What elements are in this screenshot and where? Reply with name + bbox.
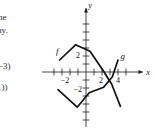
y-axis-label: y <box>87 1 92 10</box>
x-axis-arrow <box>139 70 144 74</box>
curve-label-g: g <box>121 51 126 61</box>
curve-label-f: f <box>56 46 60 56</box>
coordinate-plane: −2 2 4 2 −2 x y f g <box>0 0 155 133</box>
x-axis-label: x <box>145 68 150 77</box>
figure-container: he hy. ) (−3) 1)) <box>0 0 155 133</box>
y-tick-label-2: 2 <box>76 51 80 60</box>
gutter-line-4: (−3) <box>0 62 11 71</box>
gutter-line-1: he <box>0 13 7 22</box>
axes <box>42 8 143 127</box>
x-tick-label-4: 4 <box>116 76 120 85</box>
x-tick-label-neg2: −2 <box>61 76 70 85</box>
x-tick-label-2: 2 <box>99 76 103 85</box>
gutter-line-5: 1)) <box>0 83 8 92</box>
y-tick-label-neg2: −2 <box>73 85 82 94</box>
gutter-line-2: hy. <box>0 26 8 35</box>
